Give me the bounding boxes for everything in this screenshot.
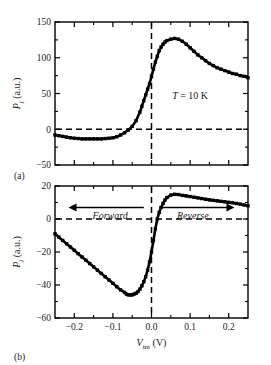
data-point-marker [138,110,141,113]
forward-label: Forward [92,210,129,221]
temperature-annotation: T = 10 K [172,90,209,101]
y-axis-units: (a.u.) [11,236,23,260]
data-point-marker [100,272,103,275]
data-point-marker [177,193,180,196]
data-point-marker [219,200,222,203]
data-point-marker [223,69,226,72]
data-point-marker [92,265,95,268]
data-point-marker [185,194,188,197]
data-point-marker [215,66,218,69]
data-point-marker [69,136,72,139]
data-point-marker [158,211,161,214]
reverse-label: Reverse [176,210,209,221]
data-point-marker [103,137,106,140]
data-point-marker [204,198,207,201]
y-axis-symbol: P [11,103,22,110]
data-point-marker [57,235,60,238]
data-point-marker [169,193,172,196]
panel-b-label: (b) [14,352,25,363]
data-point-marker [181,40,184,43]
panel-b-chart: −0.2−0.10.00.10.2−60−40−20020Pj (a.u.)Vi… [0,180,271,365]
data-point-marker [73,136,76,139]
y-tick-label: 50 [42,89,52,99]
data-point-marker [223,200,226,203]
data-point-marker [57,134,60,137]
data-point-marker [111,136,114,139]
data-point-marker [100,137,103,140]
data-point-marker [76,252,79,255]
data-point-marker [73,249,76,252]
data-point-marker [208,62,211,65]
data-point-marker [115,135,118,138]
data-point-marker [152,239,155,242]
x-axis-subscript: int [143,343,150,351]
y-tick-label: −20 [36,247,51,257]
data-point-marker [88,137,91,140]
data-point-marker [227,201,230,204]
y-tick-label: 20 [42,181,52,191]
data-point-marker [127,128,130,131]
data-point-marker [165,196,168,199]
panel-b-y-axis-title: Pj (a.u.) [11,236,25,269]
data-point-marker [69,245,72,248]
data-point-marker [192,50,195,53]
data-point-marker [134,119,137,122]
data-point-marker [65,135,68,138]
data-point-marker [196,196,199,199]
data-point-marker [161,202,164,205]
data-point-marker [196,53,199,56]
data-point-marker [140,105,143,108]
y-axis-symbol: P [11,262,22,269]
y-axis-title-text: Pj (a.u.) [11,78,25,111]
y-tick-label: −40 [36,280,51,290]
data-point-marker [239,74,242,77]
data-point-marker [165,39,168,42]
data-point-marker [107,136,110,139]
data-point-marker [154,60,157,63]
data-point-marker [84,259,87,262]
data-point-marker [142,280,145,283]
data-point-marker [173,37,176,40]
y-tick-label: −50 [36,160,51,170]
data-point-marker [204,59,207,62]
data-point-marker [181,194,184,197]
x-tick-label: −0.2 [66,322,83,332]
data-point-marker [103,275,106,278]
data-point-marker [61,135,64,138]
y-tick-label: 150 [37,17,52,27]
data-point-marker [242,203,245,206]
data-point-marker [140,284,143,287]
data-point-marker [53,232,56,235]
data-point-marker [173,193,176,196]
data-point-marker [158,49,161,52]
x-tick-label: 0.2 [223,322,235,332]
data-point-marker [76,137,79,140]
data-point-marker [84,137,87,140]
y-tick-label: 0 [46,125,51,135]
data-point-marker [65,242,68,245]
data-point-marker [212,199,215,202]
data-point-marker [200,197,203,200]
data-point-marker [156,55,159,58]
data-point-marker [88,262,91,265]
reverse-arrow-head-icon [226,203,234,211]
data-point-marker [185,42,188,45]
temp-value: = 10 K [178,90,209,101]
data-point-marker [119,133,122,136]
x-axis-title: Vint (V) [137,337,167,351]
x-tick-label: 0.0 [146,322,158,332]
data-point-marker [146,88,149,91]
data-point-marker [188,195,191,198]
x-tick-label: −0.1 [104,322,121,332]
y-tick-label: 100 [37,53,52,63]
y-tick-label: 0 [46,214,51,224]
data-point-marker [138,287,141,290]
x-axis-units: (V) [150,337,166,349]
data-point-marker [154,227,157,230]
data-point-marker [208,198,211,201]
y-tick-label: −60 [36,313,51,323]
data-point-marker [246,204,249,207]
x-tick-label: 0.1 [184,322,196,332]
data-point-marker [219,67,222,70]
data-point-marker [246,76,249,79]
